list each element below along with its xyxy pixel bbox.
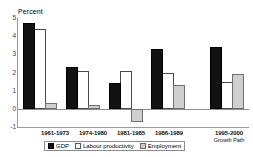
legend-label: Employment (148, 143, 181, 149)
bar-emp (45, 103, 57, 108)
x-tick-label: 1986-1989 (155, 130, 183, 136)
bar-groups (19, 18, 249, 127)
bar-gdp (23, 23, 35, 108)
y-tick-label: 0 (12, 106, 16, 113)
y-tick-label: 3 (12, 51, 16, 58)
y-tick-label: 2 (12, 69, 16, 76)
x-tick-label: 1981-1985 (117, 130, 145, 136)
bar-emp (88, 105, 100, 109)
x-tick-label: 1961-1973 (41, 130, 69, 136)
bar-group (19, 18, 62, 127)
plot-area: 5 4 3 2 1 0 -1 (17, 18, 249, 128)
y-tick-label: -1 (10, 124, 16, 131)
bars (19, 18, 62, 127)
bar-group (105, 18, 148, 127)
x-tick-label: 1974-1980 (79, 130, 107, 136)
legend: GDPLabour productivityEmployment (44, 141, 185, 151)
legend-label: GDP (56, 143, 69, 149)
bar-gdp (151, 49, 163, 109)
y-tick-label: 1 (12, 87, 16, 94)
bars (206, 18, 249, 127)
bar-group (206, 18, 249, 127)
bars (147, 18, 190, 127)
bar-gdp (66, 67, 78, 109)
group-gap (190, 18, 206, 127)
bar-emp (232, 74, 244, 109)
bar-gdp (210, 47, 222, 109)
x-tick-main: 1981-1985 (117, 130, 145, 136)
bar-prod (77, 71, 89, 109)
bar-gdp (109, 83, 121, 108)
bar-emp (173, 85, 185, 109)
y-tick-label: 4 (12, 33, 16, 40)
legend-swatch-gdp (48, 143, 54, 149)
x-tick-main: 1995-2000 (215, 130, 243, 136)
bar-prod (120, 71, 132, 109)
y-axis-title: Percent (18, 8, 43, 15)
bar-prod (34, 29, 46, 109)
bar-group (62, 18, 105, 127)
legend-item: GDP (48, 143, 69, 149)
bars (62, 18, 105, 127)
x-tick-main: 1961-1973 (41, 130, 69, 136)
legend-swatch-prod (75, 143, 81, 149)
x-tick-main: 1974-1980 (79, 130, 107, 136)
legend-label: Labour productivity (83, 143, 134, 149)
bar-emp (131, 109, 143, 122)
legend-item: Labour productivity (75, 143, 134, 149)
bars (105, 18, 148, 127)
legend-swatch-emp (140, 143, 146, 149)
legend-item: Employment (140, 143, 181, 149)
x-tick-main: 1986-1989 (155, 130, 183, 136)
bar-chart: Percent 5 4 3 2 1 0 -1 1961-19731974-198… (0, 0, 253, 157)
y-tick-label: 5 (12, 15, 16, 22)
x-tick-sub: Growth Path (214, 137, 245, 143)
bar-group (147, 18, 190, 127)
x-tick-label: 1995-2000Growth Path (214, 130, 245, 143)
